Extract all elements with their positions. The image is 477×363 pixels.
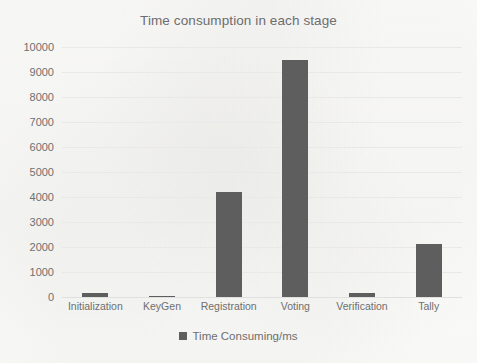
bar-series (62, 47, 462, 297)
bar-slot (329, 47, 396, 297)
legend-label: Time Consuming/ms (192, 330, 297, 342)
y-axis-tick-label: 8000 (0, 91, 54, 103)
y-axis-tick-label: 9000 (0, 66, 54, 78)
y-axis-tick-label: 10000 (0, 41, 54, 53)
bar[interactable] (216, 192, 242, 297)
chart-title: Time consumption in each stage (0, 13, 477, 28)
bar-slot (262, 47, 329, 297)
x-axis-tick-label: KeyGen (129, 300, 196, 312)
y-axis-tick-label: 7000 (0, 116, 54, 128)
x-axis-tick-label: Registration (195, 300, 262, 312)
legend-swatch-icon (179, 332, 187, 340)
plot-area (62, 47, 462, 297)
x-axis-tick-label: Voting (262, 300, 329, 312)
y-axis-tick-label: 0 (0, 291, 54, 303)
bar[interactable] (149, 296, 175, 298)
y-axis-tick-label: 4000 (0, 191, 54, 203)
y-axis-tick-label: 6000 (0, 141, 54, 153)
bar-slot (395, 47, 462, 297)
bar-slot (129, 47, 196, 297)
bar-slot (195, 47, 262, 297)
gridline (62, 297, 462, 298)
y-axis-tick-label: 2000 (0, 241, 54, 253)
y-axis-tick-label: 5000 (0, 166, 54, 178)
x-axis-tick-label: Tally (395, 300, 462, 312)
bar[interactable] (349, 293, 375, 297)
x-axis-labels: InitializationKeyGenRegistrationVotingVe… (62, 300, 462, 312)
chart-legend: Time Consuming/ms (0, 330, 477, 342)
bar[interactable] (416, 244, 442, 297)
x-axis-tick-label: Initialization (62, 300, 129, 312)
bar-slot (62, 47, 129, 297)
bar[interactable] (82, 293, 108, 297)
bar[interactable] (282, 60, 308, 298)
y-axis-tick-label: 3000 (0, 216, 54, 228)
chart-container: Time consumption in each stage 100009000… (0, 0, 477, 363)
x-axis-tick-label: Verification (329, 300, 396, 312)
y-axis-tick-label: 1000 (0, 266, 54, 278)
